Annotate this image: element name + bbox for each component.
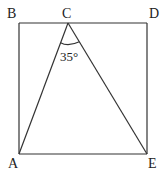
label-d: D (149, 6, 159, 21)
label-b: B (7, 6, 16, 21)
label-a: A (8, 156, 19, 171)
angle-arc-c (61, 42, 80, 45)
label-e: E (148, 156, 157, 171)
geometry-diagram: B C D A E 35° (0, 0, 168, 172)
angle-label-c: 35° (60, 49, 78, 64)
label-c: C (62, 6, 71, 21)
segment-ce (68, 23, 147, 154)
